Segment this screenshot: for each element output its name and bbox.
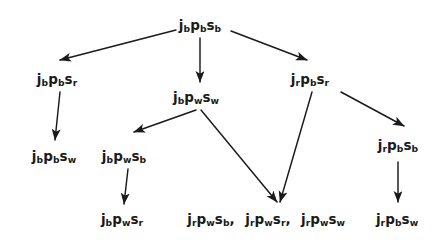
edge-n2-to-n9	[201, 110, 277, 202]
graph-node: jbpbsr	[37, 73, 77, 87]
graph-node: jrpwsr,	[245, 213, 290, 227]
graph-node: jrpwsw	[301, 213, 345, 227]
graph-node: jbpwsr	[101, 213, 143, 227]
edge-n3-to-n6	[341, 92, 404, 126]
edge-n0-to-n1	[60, 30, 176, 60]
edge-n1-to-n4	[55, 92, 60, 140]
graph-node: jbpwsb	[102, 150, 146, 164]
graph-node: jrpbsw	[376, 213, 418, 227]
graph-node: jbpbsw	[32, 150, 76, 164]
diagram-canvas: jbpbsbjbpbsrjbpwswjrpbsrjbpbswjbpwsbjrpb…	[0, 0, 444, 249]
edge-n0-to-n3	[231, 31, 307, 60]
graph-node: jrpbsb	[378, 139, 418, 153]
graph-node: jbpbsb	[179, 19, 221, 33]
graph-node: jrpbsr	[291, 73, 329, 87]
graph-node: jbpwsw	[173, 91, 219, 105]
graph-node: jrpwsb,	[187, 213, 234, 227]
edge-n5-to-n7	[124, 169, 128, 204]
edge-n2-to-n5	[134, 110, 196, 132]
edge-n3-to-n9	[280, 92, 312, 202]
